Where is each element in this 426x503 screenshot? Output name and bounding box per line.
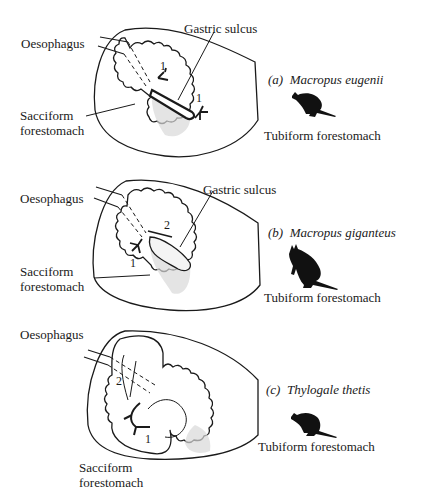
panel-b: 2 1 Oesophagus Gastric sulcus Sacciform … — [0, 165, 426, 325]
pademelon-silhouette-icon — [0, 325, 426, 503]
label-tubiform: Tubiform forestomach — [264, 291, 381, 305]
label-tubiform: Tubiform forestomach — [264, 129, 381, 143]
panel-c: 2 1 Oesophagus Sacciform forestomach (c)… — [0, 325, 426, 503]
panel-a: 1 1 Oesophagus Gastric sulcus Sacciform … — [0, 0, 426, 165]
label-tubiform: Tubiform forestomach — [258, 440, 375, 454]
